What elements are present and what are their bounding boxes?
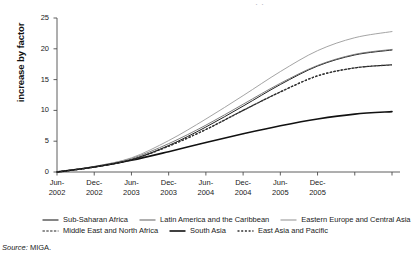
- legend-line-swatch-icon: [169, 228, 186, 234]
- legend-item[interactable]: Latin America and the Caribbean: [139, 215, 269, 224]
- legend-line-swatch-icon: [139, 217, 156, 223]
- legend-label: Latin America and the Caribbean: [160, 215, 269, 224]
- legend-line-swatch-icon: [280, 217, 297, 223]
- legend-item[interactable]: East Asia and Pacific: [237, 226, 328, 235]
- chart-axes: [57, 18, 400, 172]
- legend-row-top: Sub-Saharan AfricaLatin America and the …: [42, 214, 410, 225]
- series-line: [57, 49, 392, 172]
- x-tick-label: Dec-2004: [223, 178, 263, 197]
- legend-item[interactable]: Sub-Saharan Africa: [42, 215, 128, 224]
- legend-line-swatch-icon: [42, 228, 59, 234]
- x-tick-label: Dec-2005: [298, 178, 338, 197]
- series-line: [57, 50, 392, 172]
- y-tick-label: 25: [29, 14, 49, 22]
- line-chart-plot: [0, 0, 410, 200]
- legend-item[interactable]: Middle East and North Africa: [42, 226, 158, 235]
- x-axis-ticks: [57, 172, 392, 176]
- x-tick-label: Jun-2002: [37, 178, 77, 197]
- x-tick-label: Jun-2003: [111, 178, 151, 197]
- legend-label: South Asia: [190, 226, 226, 235]
- chart-series: [57, 32, 392, 172]
- source-label: Source:: [2, 243, 28, 252]
- y-tick-label: 20: [29, 45, 49, 53]
- x-tick-label: Dec-2002: [74, 178, 114, 197]
- legend-label: Sub-Saharan Africa: [63, 215, 128, 224]
- x-tick-label: Jun-2005: [260, 178, 300, 197]
- legend-item[interactable]: South Asia: [169, 226, 226, 235]
- y-tick-label: 15: [29, 76, 49, 84]
- legend-label: East Asia and Pacific: [258, 226, 328, 235]
- legend-label: Middle East and North Africa: [63, 226, 158, 235]
- legend-row-bottom: Middle East and North AfricaSouth AsiaEa…: [42, 225, 410, 236]
- y-axis-ticks: [54, 18, 58, 172]
- legend-item[interactable]: Eastern Europe and Central Asia: [280, 215, 410, 224]
- y-tick-label: 10: [29, 106, 49, 114]
- y-tick-label: 5: [29, 137, 49, 145]
- series-line: [57, 65, 392, 172]
- x-tick-label: Dec-2003: [149, 178, 189, 197]
- y-tick-label: 0: [29, 168, 49, 176]
- legend-label: Eastern Europe and Central Asia: [301, 215, 410, 224]
- source-value: MIGA.: [30, 243, 51, 252]
- series-line: [57, 32, 392, 172]
- series-line: [57, 65, 392, 172]
- chart-legend: Sub-Saharan AfricaLatin America and the …: [42, 214, 410, 236]
- source-note: Source: MIGA.: [2, 243, 51, 252]
- x-tick-label: Jun-2004: [186, 178, 226, 197]
- legend-line-swatch-icon: [42, 217, 59, 223]
- legend-line-swatch-icon: [237, 228, 254, 234]
